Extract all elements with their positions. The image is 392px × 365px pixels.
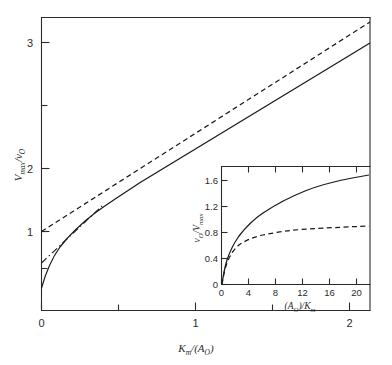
ylabel-lead-sub: max (18, 161, 27, 174)
main-y-tick-labels: 3 2 1 (27, 37, 33, 238)
inset-y-label-1p2: 1.2 (205, 201, 218, 212)
inset-x-tick-labels: 0 4 8 12 16 20 (219, 287, 362, 298)
svg-text:Vmax/vO: Vmax/vO (12, 148, 27, 181)
y-tick-label-3: 3 (27, 37, 33, 49)
inset-y-axis-label: vO/Vmax (192, 214, 204, 243)
inset-y-label-0p8: 0.8 (205, 227, 218, 238)
inset-x-label-0: 0 (219, 287, 224, 298)
ylabel-mid: /v (12, 154, 24, 163)
inset-xlabel-mid: )/K (297, 301, 311, 312)
inset-x-label-20: 20 (351, 287, 362, 298)
inset-xlabel-tail-sub: m (311, 306, 316, 313)
inset-y-label-0: 0 (213, 279, 218, 290)
main-y-ticks (42, 43, 50, 269)
figure-container: 3 2 1 0 1 2 Km/(AO) Vmax/vO (0, 0, 392, 365)
main-y-axis-label: Vmax/vO (12, 148, 27, 181)
inset-y-label-1p6: 1.6 (205, 175, 218, 186)
x-tick-label-1: 1 (192, 317, 198, 329)
chart-canvas: 3 2 1 0 1 2 Km/(AO) Vmax/vO (0, 0, 392, 365)
y-tick-label-2: 2 (27, 163, 33, 175)
svg-text:Km/(AO): Km/(AO) (177, 342, 214, 357)
inset-background (222, 167, 369, 284)
x-tick-label-2: 2 (346, 317, 352, 329)
svg-text:(AO)/Km: (AO)/Km (285, 301, 316, 313)
inset-x-label-12: 12 (297, 287, 308, 298)
xlabel-mid: /(A (190, 342, 205, 355)
inset-x-label-16: 16 (324, 287, 335, 298)
inset-y-label-0p4: 0.4 (205, 253, 218, 264)
ylabel-tail-sub: O (18, 148, 27, 154)
inset-panel: 0 0.4 0.8 1.2 1.6 0 4 8 12 (192, 167, 371, 313)
x-tick-label-0: 0 (38, 317, 44, 329)
y-tick-label-1: 1 (27, 226, 33, 238)
inset-x-label-4: 4 (246, 287, 251, 298)
inset-x-label-8: 8 (273, 287, 278, 298)
svg-text:vO/Vmax: vO/Vmax (192, 214, 204, 243)
inset-xlabel-open: (A (285, 301, 294, 312)
main-x-axis-label: Km/(AO) (177, 342, 214, 357)
inset-x-axis-label: (AO)/Km (285, 301, 316, 313)
inset-y-tick-labels: 0 0.4 0.8 1.2 1.6 (205, 175, 218, 290)
xlabel-close: ) (209, 342, 214, 355)
main-x-tick-labels: 0 1 2 (38, 317, 352, 329)
inset-ylabel-tail-sub: max (197, 214, 204, 225)
